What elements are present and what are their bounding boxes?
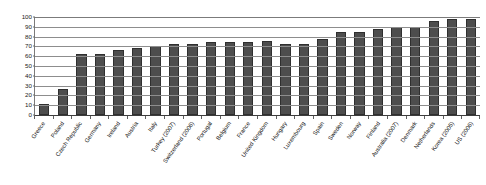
x-tick-label-text: Italy — [148, 121, 159, 133]
x-tick-label-text: France — [236, 121, 251, 139]
y-tick-label: 100 — [22, 14, 32, 20]
y-tick-label: 0 — [29, 112, 32, 118]
x-axis-labels: GreecePolandCzech RepublicGermanyIreland… — [34, 120, 480, 184]
x-label-slot: Austria — [127, 120, 146, 184]
y-tick-label: 40 — [25, 73, 32, 79]
gridline — [35, 66, 480, 67]
x-tick-label-text: Greece — [31, 121, 47, 140]
x-label-slot: Spain — [313, 120, 332, 184]
gridline — [35, 37, 480, 38]
y-tick-label: 30 — [25, 82, 32, 88]
x-label-slot: Belgium — [220, 120, 239, 184]
bar — [243, 42, 253, 116]
bar — [391, 27, 401, 115]
y-tick-label: 50 — [25, 63, 32, 69]
x-label-slot: Germany — [90, 120, 109, 184]
x-label-slot: Luxembourg — [294, 120, 313, 184]
y-tick-label: 20 — [25, 92, 32, 98]
bar — [206, 42, 216, 115]
x-label-slot: Netherlands — [424, 120, 443, 184]
x-label-slot: Hungary — [276, 120, 295, 184]
x-label-slot: Korea (2005) — [443, 120, 462, 184]
x-label-slot: Czech Republic — [71, 120, 90, 184]
bar — [58, 89, 68, 115]
bar — [336, 32, 346, 115]
x-tick-label-text: Spain — [312, 121, 325, 137]
x-tick-label-text: Austria — [125, 121, 140, 139]
gridline — [35, 17, 480, 18]
y-tick-label: 80 — [25, 33, 32, 39]
x-label-slot: Australia (2007) — [387, 120, 406, 184]
gridline — [35, 86, 480, 87]
bar — [429, 21, 439, 115]
x-label-slot: Portugal — [201, 120, 220, 184]
bar — [225, 42, 235, 115]
bar — [410, 27, 420, 115]
plot-area: 0102030405060708090100 — [34, 17, 480, 116]
gridline — [35, 76, 480, 77]
x-tick-label-text: Norway — [347, 121, 363, 141]
x-tick-label-text: Poland — [50, 121, 65, 139]
gridline — [35, 46, 480, 47]
y-tick-label: 90 — [25, 24, 32, 30]
gridline — [35, 56, 480, 57]
x-tick-label-text: Finland — [366, 121, 382, 140]
x-label-slot: Greece — [34, 120, 53, 184]
bar-chart-figure: 0102030405060708090100 GreecePolandCzech… — [0, 0, 486, 185]
gridline — [35, 105, 480, 106]
x-label-slot: Ireland — [108, 120, 127, 184]
bar — [373, 29, 383, 115]
y-tick-label: 70 — [25, 43, 32, 49]
x-label-slot: Denmark — [406, 120, 425, 184]
x-label-slot: Switzerland (2006) — [183, 120, 202, 184]
x-label-slot: Sweden — [331, 120, 350, 184]
x-tick-label-text: Ireland — [106, 121, 121, 139]
x-label-slot: US (2006) — [461, 120, 480, 184]
x-label-slot: United Kingdom — [257, 120, 276, 184]
gridline — [35, 27, 480, 28]
bar — [262, 41, 272, 115]
y-tick-label: 60 — [25, 53, 32, 59]
bar — [354, 32, 364, 115]
gridline — [35, 95, 480, 96]
y-tick-label: 10 — [25, 102, 32, 108]
x-label-slot: Norway — [350, 120, 369, 184]
